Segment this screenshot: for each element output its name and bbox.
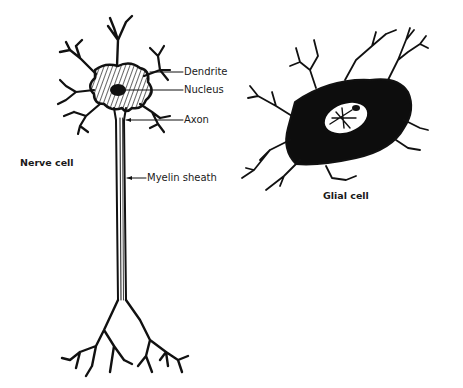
nucleus-label: Nucleus — [184, 84, 224, 96]
nerve-cell-title: Nerve cell — [20, 157, 74, 169]
glial-cell-title: Glial cell — [323, 190, 369, 202]
nerve-cell-drawing — [58, 16, 188, 376]
neuron-glia-illustration — [0, 0, 463, 388]
myelin-sheath-label: Myelin sheath — [147, 172, 217, 184]
axon-label: Axon — [184, 114, 209, 126]
glial-cell-drawing — [242, 28, 428, 190]
dendrite-label: Dendrite — [184, 66, 228, 78]
